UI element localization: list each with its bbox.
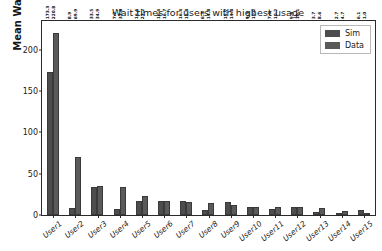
bar-data[interactable]: 69.9 (75, 157, 81, 215)
y-tick-label: 100 (23, 128, 38, 137)
x-tick-mark (142, 215, 143, 218)
bar-group: 16.623.2 (131, 21, 153, 215)
bar-value-text: 10.2 (274, 8, 278, 19)
bar-value-text: 10.1 (296, 8, 300, 19)
bar-data[interactable]: 14.8 (208, 203, 214, 215)
bar-value-text: 10.2 (252, 8, 256, 19)
bar-value-text: 16.6 (135, 8, 139, 19)
bar-column: 220.8 (53, 21, 59, 215)
bar-group: 33.534.9 (86, 21, 108, 215)
bar-data[interactable]: 23.2 (142, 196, 148, 215)
bar-column: 10.2 (275, 21, 281, 215)
y-tick-label: 50 (28, 169, 38, 178)
x-tick-label-user11: User11 (259, 219, 285, 243)
bar-group: 7.733.8 (109, 21, 131, 215)
x-tick-label-user1: User1 (41, 219, 64, 240)
x-tick-label-user5: User5 (130, 219, 153, 240)
bar-value-text: 16.4 (179, 8, 183, 19)
y-tick-label: 0 (33, 211, 38, 220)
x-tick-label-user15: User15 (348, 219, 374, 243)
bar-data[interactable]: 220.8 (53, 33, 59, 215)
bar-value-text: 69.9 (74, 8, 78, 19)
x-tick-label-user2: User2 (63, 219, 86, 240)
legend-label-sim: Sim (345, 29, 360, 38)
x-tick-mark (209, 215, 210, 218)
x-tick-mark (120, 215, 121, 218)
x-tick-label-user7: User7 (174, 219, 197, 240)
bar-value-text: 9.6 (290, 11, 294, 19)
bar-value-text: 2.7 (334, 11, 338, 19)
bar-value-text: 11.8 (229, 8, 233, 19)
bar-column: 16.7 (164, 21, 170, 215)
legend-swatch-data (325, 42, 340, 49)
legend-item-sim: Sim (325, 29, 364, 38)
bar-value-text: 173.3 (46, 5, 50, 19)
bar-value-text: 23.2 (141, 8, 145, 19)
bar-group: 9.610.1 (286, 21, 308, 215)
bar-data[interactable]: 10.2 (253, 207, 259, 215)
bar-value-text: 9.3 (246, 11, 250, 19)
x-tick-mark (231, 215, 232, 218)
bar-data[interactable]: 10.2 (275, 207, 281, 215)
legend-label-data: Data (345, 41, 364, 50)
y-axis-label: Mean Wait Time (hrs) (12, 0, 23, 55)
bar-column: 10.2 (253, 21, 259, 215)
x-tick-label-user14: User14 (326, 219, 352, 243)
bar-value-text: 16.7 (163, 8, 167, 19)
bar-value-text: 15.8 (185, 8, 189, 19)
bar-data[interactable]: 15.8 (186, 202, 192, 215)
bar-group: 7.610.2 (264, 21, 286, 215)
x-tick-mark (342, 215, 343, 218)
x-tick-label-user12: User12 (282, 219, 308, 243)
x-tick-mark (297, 215, 298, 218)
bar-value-text: 15.7 (223, 8, 227, 19)
bar-value-text: 1.0 (363, 11, 367, 19)
bar-column: 14.8 (208, 21, 214, 215)
y-tick-label: 200 (23, 45, 38, 54)
bar-column: 15.8 (186, 21, 192, 215)
x-tick-label-user6: User6 (152, 219, 175, 240)
bar-data[interactable]: 33.8 (120, 187, 126, 215)
chart-legend: Sim Data (320, 25, 371, 54)
bar-value-text: 33.8 (118, 8, 122, 19)
bar-value-text: 34.9 (96, 8, 100, 19)
x-tick-mark (98, 215, 99, 218)
bar-value-text: 7.7 (112, 11, 116, 19)
bar-value-text: 220.8 (52, 5, 56, 19)
bar-value-text: 14.8 (207, 8, 211, 19)
x-tick-mark (320, 215, 321, 218)
x-tick-mark (364, 215, 365, 218)
bar-group: 6.314.8 (197, 21, 219, 215)
bar-column: 33.8 (120, 21, 126, 215)
bar-value-text: 6.1 (357, 11, 361, 19)
bar-value-text: 8.6 (318, 11, 322, 19)
bar-group: 173.3220.8 (42, 21, 64, 215)
bar-data[interactable]: 11.8 (231, 205, 237, 215)
bar-column: 23.2 (142, 21, 148, 215)
bar-value-text: 8.9 (68, 11, 72, 19)
x-tick-label-user13: User13 (304, 219, 330, 243)
legend-item-data: Data (325, 41, 364, 50)
bar-data[interactable]: 8.6 (319, 208, 325, 215)
y-tick-label: 150 (23, 87, 38, 96)
x-tick-mark (253, 215, 254, 218)
bar-column: 69.9 (75, 21, 81, 215)
x-tick-mark (275, 215, 276, 218)
bar-value-text: 4.7 (340, 11, 344, 19)
bar-group: 16.415.8 (175, 21, 197, 215)
bar-column: 34.9 (97, 21, 103, 215)
bar-column: 11.8 (231, 21, 237, 215)
x-tick-label-user8: User8 (197, 219, 220, 240)
bar-data[interactable]: 10.1 (297, 207, 303, 215)
bar-group: 16.416.7 (153, 21, 175, 215)
x-tick-label-user10: User10 (237, 219, 263, 243)
bar-group: 8.969.9 (64, 21, 86, 215)
x-tick-label-user4: User4 (108, 219, 131, 240)
bar-data[interactable]: 34.9 (97, 186, 103, 215)
plot-area: Mean Wait Time (hrs) 050100150200 173.32… (41, 20, 376, 216)
bar-value-text: 7.6 (268, 11, 272, 19)
chart-figure: Wait times for users with highest usage … (0, 0, 382, 251)
x-tick-mark (164, 215, 165, 218)
x-tick-mark (53, 215, 54, 218)
bar-data[interactable]: 16.7 (164, 201, 170, 215)
